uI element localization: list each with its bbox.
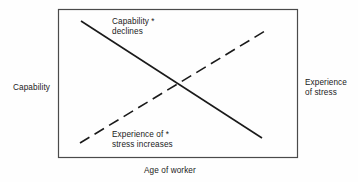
series-label-stress: Experience of *stress increases <box>112 130 173 150</box>
series-label-stress-line2: stress increases <box>112 140 173 149</box>
series-label-stress-line1: Experience of * <box>112 130 169 139</box>
axis-label-right-line2: of stress <box>305 88 337 97</box>
axis-label-right-line1: Experience <box>305 78 347 87</box>
series-label-capability-line1: Capability * <box>112 17 155 26</box>
axis-label-right: Experienceof stress <box>305 78 347 98</box>
stress-increase-line <box>80 31 265 143</box>
series-label-capability: Capability *declines <box>112 17 155 37</box>
capability-decline-line <box>81 21 262 138</box>
series-label-capability-line2: declines <box>112 27 143 36</box>
axis-label-left: Capability <box>13 83 50 93</box>
axis-label-bottom: Age of worker <box>144 166 196 176</box>
figure-container: Capability Experienceof stress Age of wo… <box>0 0 358 182</box>
